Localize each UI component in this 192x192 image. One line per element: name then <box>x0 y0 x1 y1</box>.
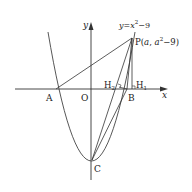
point-P-tail: −9) <box>163 37 179 47</box>
point-H1-label: H1 <box>136 80 147 91</box>
point-H1-sub: 1 <box>143 85 147 91</box>
point-B-label: B <box>128 93 135 103</box>
curve-label-prefix: y=x <box>118 21 135 30</box>
segment-AP <box>56 38 132 89</box>
segment-BC <box>92 89 127 160</box>
y-axis-arrow-icon <box>89 22 94 30</box>
point-A-label: A <box>45 93 53 103</box>
curve-label-suffix: −9 <box>138 21 150 30</box>
parabola-curve <box>48 32 135 161</box>
point-H1-name: H <box>136 80 143 90</box>
y-axis-label: y <box>82 20 89 30</box>
x-axis-label: x <box>162 90 167 100</box>
point-P-label: P(a, a2−9) <box>135 36 179 47</box>
curve-equation-label: y=x2−9 <box>118 19 150 30</box>
point-H2-label: H2 <box>104 80 115 91</box>
parabola-diagram: y x y=x2−9 P(a, a2−9) A O B C H1 H2 <box>0 0 192 192</box>
point-O-label: O <box>81 93 88 103</box>
point-H2-sub: 2 <box>111 85 115 91</box>
point-C-label: C <box>94 164 101 174</box>
point-H2-name: H <box>104 80 111 90</box>
segment-PC <box>92 38 132 160</box>
